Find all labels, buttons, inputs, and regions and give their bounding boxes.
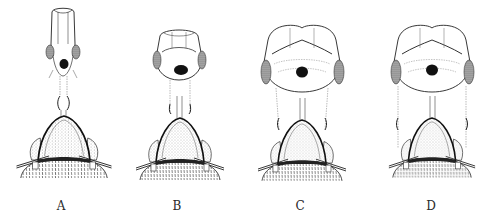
figure: A B C D [0,0,500,224]
panel-b-drawing [136,30,224,180]
panel-a-drawing [16,8,111,178]
panel-c-drawing [258,25,346,180]
panel-label-a: A [46,199,76,213]
panel-label-c: C [285,199,315,213]
panel-label-d: D [416,199,446,213]
panel-label-b: B [162,199,192,213]
panel-d-drawing [389,25,475,177]
illustration-canvas [0,0,500,224]
